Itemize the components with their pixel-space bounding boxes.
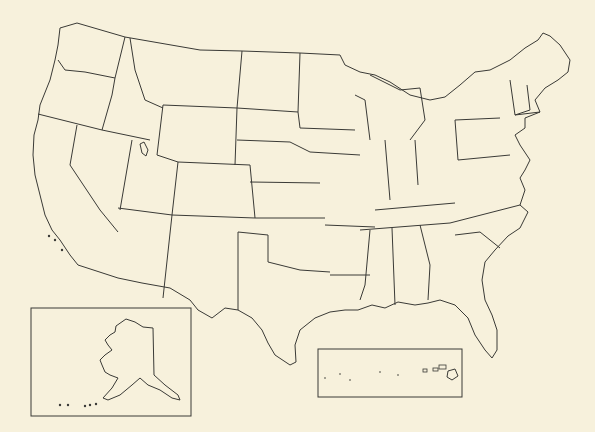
us-outline — [33, 23, 570, 365]
border-nd-sd — [237, 108, 298, 112]
border-ut-co — [172, 162, 178, 215]
alaska-outline — [100, 319, 180, 400]
border-ca-nv — [70, 125, 118, 232]
border-ok-tx — [238, 232, 330, 272]
border-ia-mo — [310, 152, 360, 155]
border-mo-ar — [325, 225, 375, 227]
aleutian-island — [89, 404, 91, 406]
border-mt-wy — [163, 105, 237, 108]
hawaii-kauai — [423, 369, 427, 372]
us-outline-map — [0, 0, 595, 432]
border-al-ga — [420, 225, 430, 300]
aleutian-island — [67, 404, 69, 406]
island — [61, 249, 63, 251]
aleutian-island — [95, 403, 97, 405]
island — [48, 235, 50, 237]
border-in-oh — [415, 140, 418, 185]
border-ky-tn — [375, 203, 455, 210]
island — [54, 239, 56, 241]
hawaii-island — [339, 373, 341, 375]
border-sd-ne — [237, 140, 310, 152]
border-nv-ut — [120, 140, 132, 210]
border-oh-pa — [455, 120, 458, 160]
border-wi-mi — [355, 95, 370, 140]
border-mi-lp — [370, 75, 425, 140]
border-ms-west — [360, 230, 370, 300]
hawaii-island — [349, 379, 351, 381]
border-or-ca-nv — [38, 114, 150, 140]
border-pa-ny — [455, 118, 500, 120]
border-il-in — [385, 140, 390, 200]
border-az-nm — [163, 215, 172, 298]
border-wy-co — [157, 155, 250, 165]
border-id-wy — [157, 105, 163, 155]
hawaii-inset-frame — [318, 349, 462, 397]
border-ms-al — [392, 228, 395, 305]
border-pa-md — [458, 155, 510, 160]
border-nd-mn — [298, 53, 300, 128]
border-ne-ks — [250, 182, 320, 183]
hawaii-oahu — [433, 368, 438, 371]
border-ut-az — [118, 208, 255, 218]
aleutian-island — [84, 405, 86, 407]
hawaii-maui — [439, 365, 446, 369]
border-nc-sc — [455, 232, 500, 248]
hawaii-island — [397, 374, 399, 376]
hawaii-island — [324, 377, 326, 379]
aleutian-island — [59, 404, 61, 406]
border-mn-ia — [300, 128, 355, 130]
border-va-nc — [450, 205, 520, 223]
map-canvas — [0, 0, 595, 432]
border-co-ks — [250, 165, 255, 218]
border-ny-vt-nh — [510, 80, 530, 115]
alaska-inset-frame — [31, 308, 191, 416]
border-id-west — [102, 37, 125, 130]
hawaii-big-island — [447, 369, 458, 380]
great-salt-lake — [140, 142, 148, 156]
hawaii-island — [379, 371, 381, 373]
border-id-mt — [130, 38, 163, 108]
border-wa-or — [58, 60, 115, 78]
